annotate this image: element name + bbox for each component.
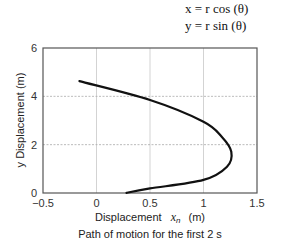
svg-text:2: 2 bbox=[31, 139, 37, 151]
chart: −0.500.511.5 0246 Displacement xn (m) Pa… bbox=[0, 0, 281, 252]
svg-text:0: 0 bbox=[31, 187, 37, 199]
svg-text:0: 0 bbox=[93, 197, 99, 209]
path-curve bbox=[79, 81, 231, 193]
svg-text:4: 4 bbox=[31, 90, 37, 102]
svg-text:0.5: 0.5 bbox=[142, 197, 157, 209]
x-axis-label: Displacement xn (m) bbox=[95, 210, 205, 225]
y-axis-label: y Displacement (m) bbox=[14, 73, 26, 168]
svg-text:1.5: 1.5 bbox=[249, 197, 264, 209]
svg-text:1: 1 bbox=[200, 197, 206, 209]
chart-caption: Path of motion for the first 2 s bbox=[78, 228, 222, 240]
y-axis-ticks: 0246 bbox=[31, 42, 37, 199]
svg-text:6: 6 bbox=[31, 42, 37, 54]
x-axis-ticks: −0.500.511.5 bbox=[32, 197, 265, 209]
grid-lines bbox=[43, 48, 257, 193]
